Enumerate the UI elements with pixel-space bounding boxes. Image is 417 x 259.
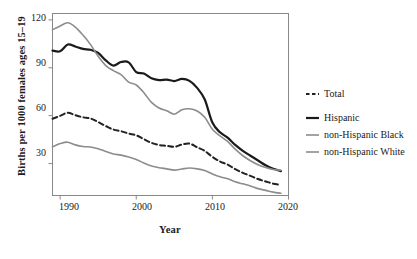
chart-figure: Births per 1000 females ages 15–19 120 9… [0, 0, 417, 259]
legend-label-total: Total [324, 88, 344, 99]
legend-item-hispanic[interactable]: Hispanic [306, 110, 414, 125]
legend-item-non-hispanic-white[interactable]: non-Hispanic White [306, 144, 414, 159]
legend-item-non-hispanic-black[interactable]: non-Hispanic Black [306, 127, 414, 142]
series-line-non-hispanic-white [53, 142, 281, 193]
legend-label-hispanic: Hispanic [324, 112, 360, 123]
series-line-hispanic [53, 44, 281, 171]
legend-swatch-solid-gray-icon [306, 130, 319, 140]
axis-ticks [49, 20, 289, 200]
legend-label-non-hispanic-white: non-Hispanic White [324, 146, 405, 157]
chart-legend: Total Hispanic non-Hispanic Black non-Hi… [306, 86, 414, 161]
legend-swatch-solid-gray2-icon [306, 147, 319, 157]
legend-item-total[interactable]: Total [306, 86, 414, 101]
series-line-total [53, 113, 281, 185]
series-line-non-hispanic-black [53, 23, 281, 171]
legend-swatch-dashed-icon [306, 89, 319, 99]
data-lines [53, 23, 281, 194]
legend-label-non-hispanic-black: non-Hispanic Black [324, 129, 404, 140]
legend-swatch-solid-black-icon [306, 113, 319, 123]
